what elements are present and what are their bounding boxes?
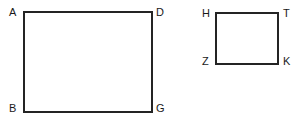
geometry-figure-canvas: A D B G H T Z K [0, 0, 302, 126]
vertex-label-d: D [156, 7, 164, 18]
vertex-label-h: H [202, 8, 210, 19]
vertex-label-g: G [156, 103, 165, 114]
large-rectangle [23, 11, 153, 113]
vertex-label-a: A [9, 7, 16, 18]
vertex-label-k: K [283, 56, 290, 67]
vertex-label-b: B [9, 103, 16, 114]
vertex-label-z: Z [202, 56, 209, 67]
small-rectangle [215, 12, 279, 65]
vertex-label-t: T [283, 8, 290, 19]
